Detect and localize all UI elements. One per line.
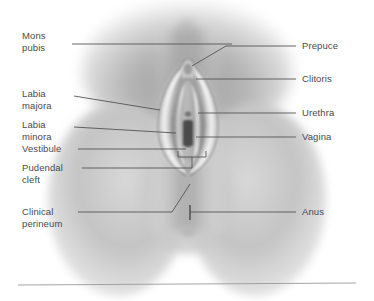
anus-group bbox=[181, 227, 195, 237]
anal-opening bbox=[181, 227, 195, 237]
label-clitoris: Clitoris bbox=[302, 73, 332, 85]
anatomy-figure: Mons pubis Labia majora Labia minora Ves… bbox=[0, 0, 374, 301]
label-clinical-perineum: Clinical perineum bbox=[22, 206, 62, 229]
label-labia-majora: Labia majora bbox=[22, 88, 52, 111]
label-vestibule: Vestibule bbox=[22, 143, 61, 155]
label-urethra: Urethra bbox=[302, 107, 334, 119]
clitoris-group bbox=[181, 58, 195, 78]
clitoris-glans-shape bbox=[184, 64, 192, 75]
label-prepuce: Prepuce bbox=[302, 40, 338, 52]
label-labia-minora: Labia minora bbox=[22, 119, 52, 142]
label-mons-pubis: Mons pubis bbox=[22, 30, 46, 53]
label-vagina: Vagina bbox=[302, 131, 331, 143]
urethral-opening bbox=[185, 111, 191, 116]
label-pudendal-cleft: Pudendal cleft bbox=[22, 162, 63, 185]
baseline-rule bbox=[18, 283, 356, 285]
label-anus: Anus bbox=[302, 206, 324, 218]
